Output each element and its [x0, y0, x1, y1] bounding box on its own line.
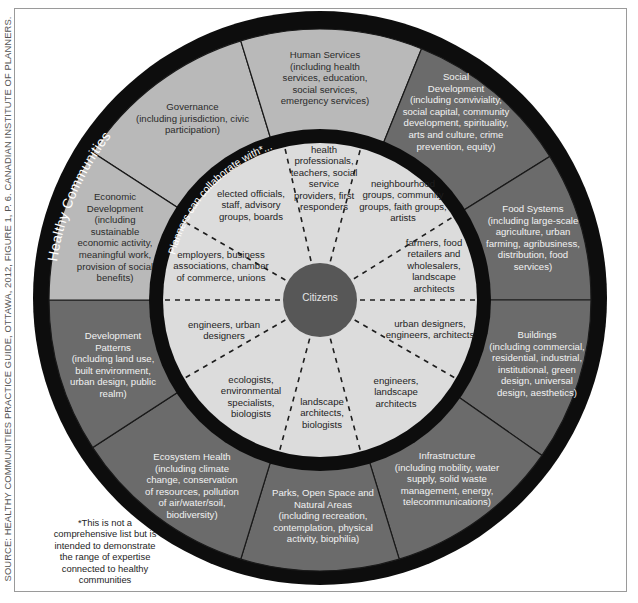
segment-detail: (including large-scale agriculture, urba…	[484, 215, 582, 273]
segment-title: Social Development	[426, 71, 486, 94]
segment-social-development: Social Development (including conviviali…	[400, 71, 512, 152]
segment-detail: (including recreation, contemplation, ph…	[268, 510, 378, 545]
segment-detail: (including conviviality, social capital,…	[400, 94, 512, 152]
collaborator-landscape-architects: landscape architects, biologists	[290, 396, 354, 430]
collaborator-engineers-urban: engineers, urban designers	[183, 319, 265, 342]
collaborator-urban-designers: urban designers, engineers, architects	[385, 318, 475, 341]
segment-parks: Parks, Open Space and Natural Areas (inc…	[268, 487, 378, 545]
segment-title: Development Patterns	[83, 330, 143, 353]
segment-detail: (including jurisdiction, civic participa…	[130, 113, 255, 136]
segment-detail: (including sustainable economic activity…	[70, 214, 160, 284]
segment-detail: (including health services, education, s…	[270, 61, 380, 107]
segment-human-services: Human Services (including health service…	[270, 49, 380, 107]
segment-detail: (including mobility, water supply, solid…	[392, 462, 502, 508]
segment-food-systems: Food Systems (including large-scale agri…	[484, 203, 582, 273]
footnote: *This is not a comprehensive list but is…	[50, 517, 160, 585]
collaborator-neighbourhood-groups: neighbourhood groups, community groups, …	[357, 178, 449, 224]
segment-title: Ecosystem Health	[142, 451, 242, 463]
segment-title: Parks, Open Space and Natural Areas	[268, 487, 378, 510]
center-label-citizens: Citizens	[283, 292, 357, 303]
segment-title: Infrastructure	[392, 450, 502, 462]
collaborator-employers: employers, business associations, chambe…	[170, 249, 272, 283]
segment-development-patterns: Development Patterns (including land use…	[70, 330, 156, 400]
segment-buildings: Buildings (including commercial, residen…	[488, 329, 586, 399]
segment-detail: (including climate change, conservation …	[142, 463, 242, 521]
collaborator-engineers-landscape: engineers, landscape architects	[366, 375, 426, 409]
segment-title: Food Systems	[484, 203, 582, 215]
segment-title: Governance	[130, 101, 255, 113]
segment-detail: (including land use, built environment, …	[70, 353, 156, 399]
collaborator-farmers: farmers, food retailers and wholesalers,…	[395, 237, 473, 294]
segment-title: Buildings	[488, 329, 586, 341]
segment-title: Human Services	[270, 49, 380, 61]
collaborator-elected-officials: elected officials, staff, advisory group…	[215, 188, 287, 222]
segment-governance: Governance (including jurisdiction, civi…	[130, 101, 255, 136]
segment-title: Economic Development	[82, 191, 148, 214]
segment-economic-development: Economic Development (including sustaina…	[70, 191, 160, 284]
segment-ecosystem-health: Ecosystem Health (including climate chan…	[142, 451, 242, 521]
segment-infrastructure: Infrastructure (including mobility, wate…	[392, 450, 502, 508]
segment-detail: (including commercial, residential, indu…	[488, 341, 586, 399]
collaborator-health-professionals: health professionals, teachers, social s…	[288, 144, 360, 212]
collaborator-ecologists: ecologists, environmental specialists, b…	[219, 374, 283, 420]
